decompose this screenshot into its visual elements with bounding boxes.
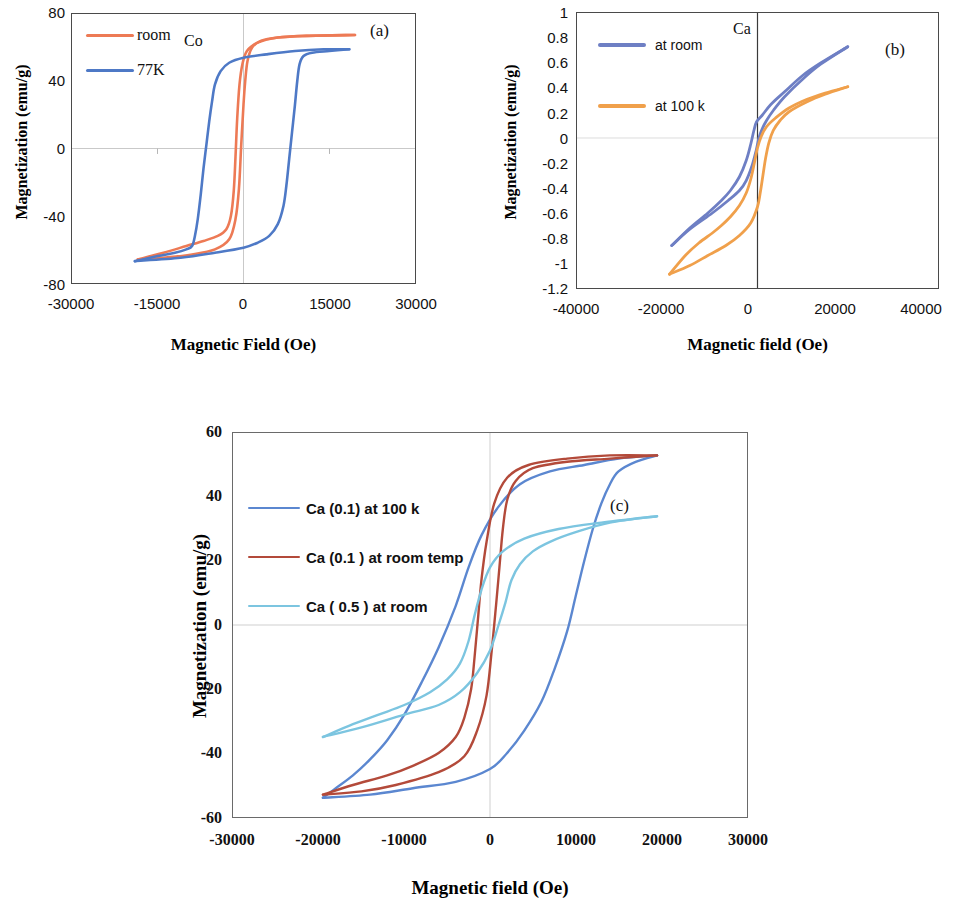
panel-c-ytick-4: 20 [174, 681, 222, 697]
panel-a-legend-label-77k: 77K [137, 61, 165, 79]
panel-b-x-axis-title: Magnetic field (Oe) [576, 335, 939, 355]
panel-b-ytick-10: -1 [510, 256, 568, 271]
panel-c-legend-item-ca01-room[interactable]: Ca (0.1 ) at room temp [248, 547, 464, 567]
panel-a-sample-label: Co [184, 32, 203, 50]
panel-c-legend-label-ca01-room: Ca (0.1 ) at room temp [306, 549, 464, 566]
panel-b-legend-label-at-100k: at 100 k [655, 98, 705, 114]
panel-a-ytick-0: 80 [21, 5, 65, 20]
panel-c-xtick-6: 30000 [703, 832, 793, 848]
panel-b-legend-swatch-at-room [598, 43, 646, 47]
panel-c-xtick-3: 0 [445, 832, 535, 848]
panel-c-plot-svg [233, 433, 747, 817]
panel-a-xtick-3: 15000 [285, 296, 375, 311]
panel-c-tag: (c) [610, 496, 629, 516]
panel-b-xtick-4: 40000 [876, 301, 963, 316]
panel-a-legend-item-room[interactable]: room [86, 25, 171, 45]
panel-c-ytick-0: 60 [174, 424, 222, 440]
panel-c-ytick-6: -60 [174, 810, 222, 826]
panel-b-ytick-0: 1 [510, 5, 568, 20]
panel-b-ytick-5: 0 [510, 131, 568, 146]
panel-b-sample-label: Ca [733, 20, 751, 38]
panel-b-xtick-3: 20000 [790, 301, 880, 316]
panel-b: Magnetization (emu/g) 1 0.8 0.6 0.4 0.2 … [480, 0, 963, 360]
panel-b-tag: (b) [885, 40, 905, 60]
panel-a-legend-item-77k[interactable]: 77K [86, 60, 171, 80]
panel-b-xtick-1: -20000 [616, 301, 706, 316]
panel-c-xtick-1: -20000 [273, 832, 363, 848]
panel-b-legend: at room at 100 k [598, 35, 705, 116]
panel-a-legend-swatch-77k [86, 69, 134, 72]
panel-b-ytick-9: -0.8 [510, 231, 568, 246]
panel-c-legend-item-ca01-100k[interactable]: Ca (0.1) at 100 k [248, 498, 464, 518]
panel-c-xtick-0: -30000 [187, 832, 277, 848]
panel-c-xtick-2: -10000 [359, 832, 449, 848]
panel-a: Magnetization (emu/g) 80 40 0 -40 -80 -3… [0, 0, 480, 360]
panel-c: Magnetization (emu/g) 60 40 20 0 20 -40 … [160, 400, 800, 906]
panel-b-ytick-4: 0.2 [510, 106, 568, 121]
panel-b-ytick-2: 0.6 [510, 55, 568, 70]
panel-c-x-axis-title: Magnetic field (Oe) [232, 877, 748, 899]
panel-c-zero-lines [233, 433, 747, 817]
panel-b-ytick-6: -0.2 [510, 156, 568, 171]
panel-a-legend-label-room: room [137, 26, 171, 44]
panel-a-xtick-0: -30000 [26, 296, 116, 311]
panel-c-xtick-4: 10000 [531, 832, 621, 848]
panel-c-legend-swatch-ca01-room [248, 556, 300, 559]
panel-c-ytick-3: 0 [174, 617, 222, 633]
panel-c-legend: Ca (0.1) at 100 k Ca (0.1 ) at room temp… [248, 498, 464, 616]
panel-c-ytick-1: 40 [174, 488, 222, 504]
panel-c-legend-item-ca05-room[interactable]: Ca ( 0.5 ) at room [248, 596, 464, 616]
panel-b-legend-item-at-room[interactable]: at room [598, 35, 705, 55]
panel-a-xtick-1: -15000 [112, 296, 202, 311]
panel-c-legend-swatch-ca01-100k [248, 507, 300, 510]
panel-a-ytick-2: 0 [21, 141, 65, 156]
panel-c-ytick-2: 20 [174, 552, 222, 568]
panel-a-xtick-2: 0 [198, 296, 288, 311]
panel-b-ytick-1: 0.8 [510, 30, 568, 45]
panel-c-plot-frame [232, 432, 748, 818]
panel-b-ytick-3: 0.4 [510, 80, 568, 95]
panel-c-ytick-5: -40 [174, 745, 222, 761]
curve-a-series-1-branch-1 [135, 49, 349, 261]
panel-a-xtick-4: 30000 [371, 296, 461, 311]
panel-c-xtick-5: 20000 [617, 832, 707, 848]
panel-c-legend-label-ca05-room: Ca ( 0.5 ) at room [306, 598, 428, 615]
curve-a-series-1-branch-0 [135, 49, 349, 261]
panel-a-ytick-3: -40 [21, 209, 65, 224]
panel-b-legend-swatch-at-100k [598, 104, 646, 108]
panel-a-legend-swatch-room [86, 34, 134, 37]
panel-a-x-axis-title: Magnetic Field (Oe) [71, 335, 416, 355]
panel-b-legend-item-at-100k[interactable]: at 100 k [598, 96, 705, 116]
panel-a-legend: room 77K [86, 25, 171, 80]
panel-c-legend-swatch-ca05-room [248, 605, 300, 608]
panel-c-legend-label-ca01-100k: Ca (0.1) at 100 k [306, 500, 419, 517]
panel-b-ytick-8: -0.6 [510, 206, 568, 221]
panel-b-ytick-7: -0.4 [510, 181, 568, 196]
panel-b-xtick-2: 0 [703, 301, 793, 316]
panel-b-legend-label-at-room: at room [655, 37, 702, 53]
panel-a-ytick-4: -80 [21, 277, 65, 292]
panel-a-ytick-1: 40 [21, 73, 65, 88]
panel-b-ytick-11: -1.2 [510, 281, 568, 296]
panel-a-tag: (a) [370, 21, 389, 41]
panel-b-xtick-0: -40000 [531, 301, 621, 316]
